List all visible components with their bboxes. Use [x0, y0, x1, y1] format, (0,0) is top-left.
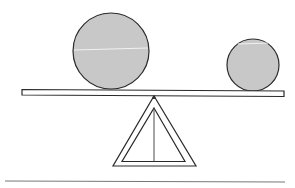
balance-scale-diagram [0, 0, 295, 188]
large-ball [73, 13, 149, 89]
small-ball [227, 39, 279, 91]
seesaw-plank [22, 90, 284, 97]
ground-line [5, 181, 285, 182]
fulcrum [113, 96, 196, 166]
